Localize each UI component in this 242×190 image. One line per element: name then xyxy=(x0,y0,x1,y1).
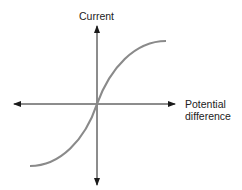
y-axis-label: Current xyxy=(79,10,114,22)
x-axis-label-line2: difference xyxy=(185,110,231,122)
iv-diagram: Current Potential difference xyxy=(0,0,242,190)
axes-and-curve xyxy=(0,0,242,190)
x-axis-label-line1: Potential xyxy=(185,98,226,110)
